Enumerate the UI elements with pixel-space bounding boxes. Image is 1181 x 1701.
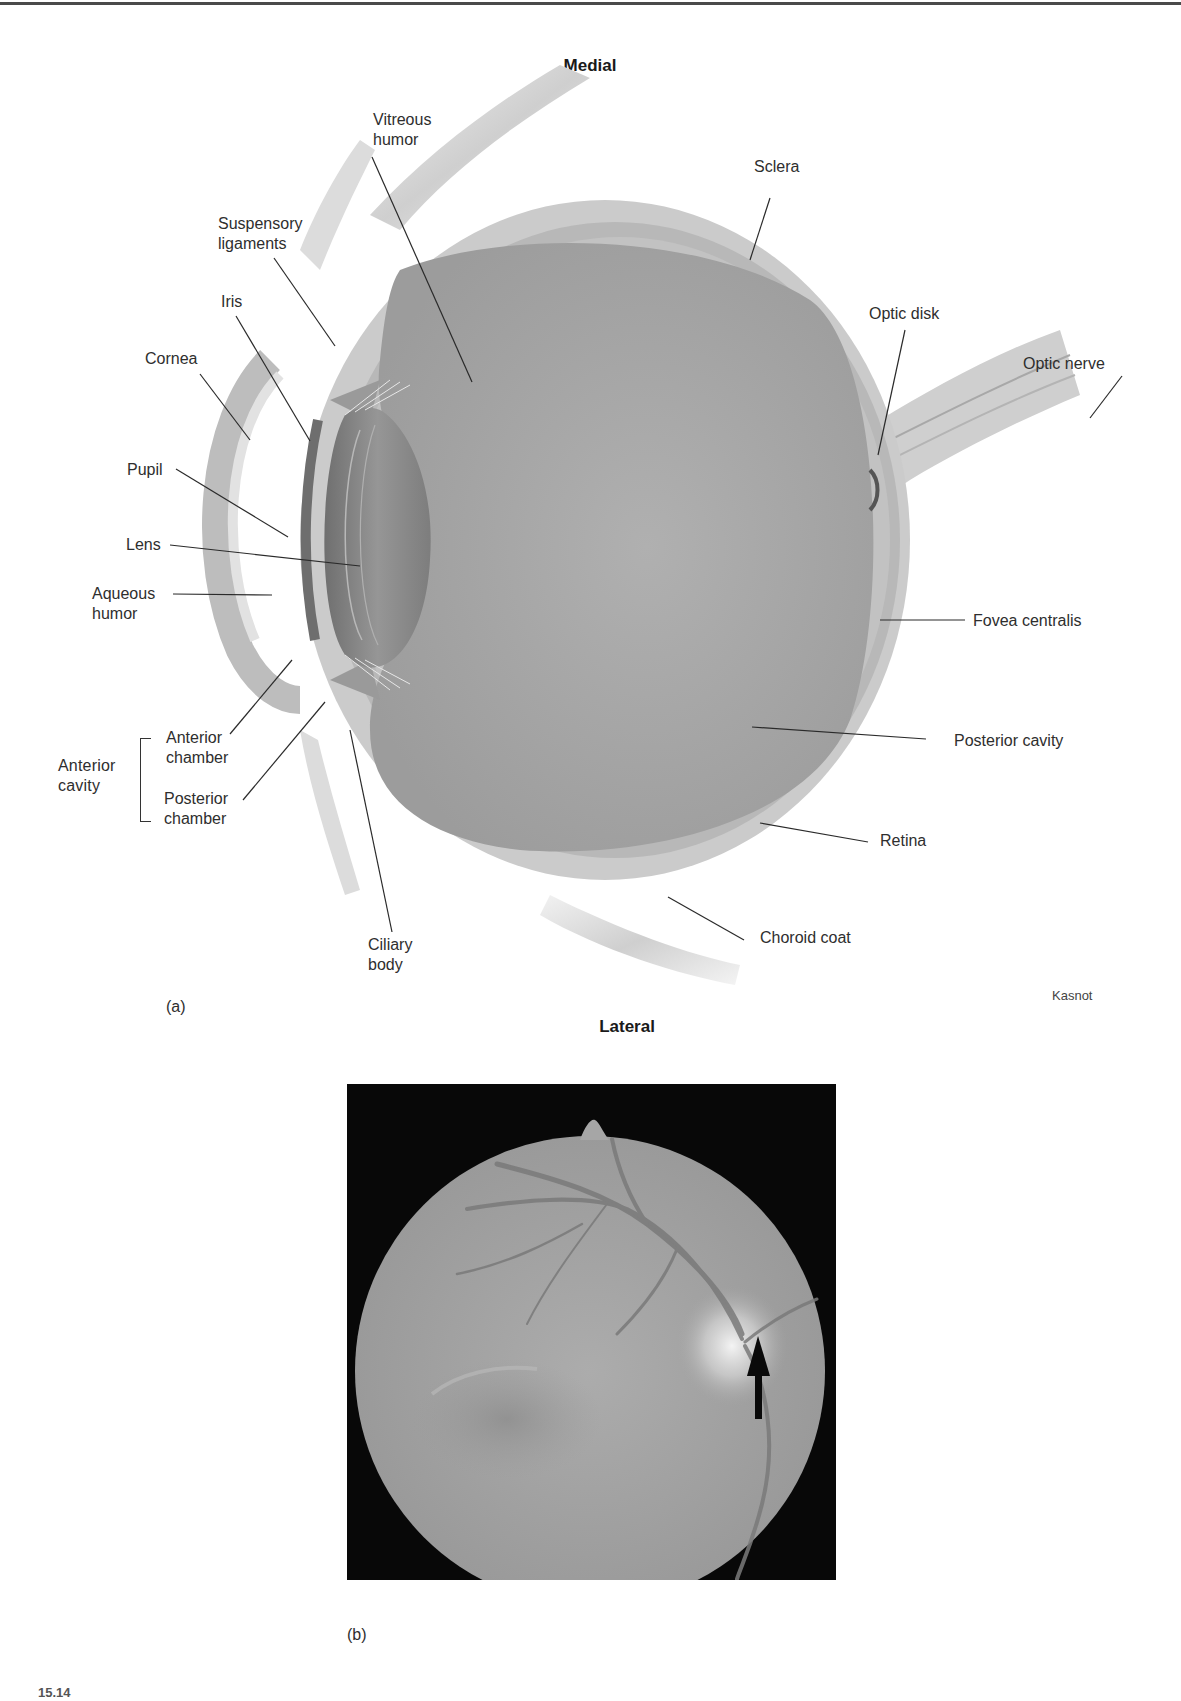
label-optic-nerve: Optic nerve	[1023, 354, 1105, 374]
fundus-photograph	[347, 1084, 836, 1580]
label-pupil: Pupil	[127, 460, 163, 480]
label-vitreous-humor: Vitreous humor	[373, 110, 431, 150]
label-sclera: Sclera	[754, 157, 799, 177]
panel-a-letter: (a)	[166, 998, 186, 1016]
eye-cross-section-diagram	[0, 0, 1181, 1000]
fundus-image	[347, 1084, 836, 1580]
label-posterior-cavity: Posterior cavity	[954, 731, 1063, 751]
lateral-heading: Lateral	[599, 1017, 655, 1037]
label-cornea: Cornea	[145, 349, 197, 369]
lower-muscle	[300, 730, 360, 895]
label-iris: Iris	[221, 292, 242, 312]
label-posterior-chamber: Posterior chamber	[164, 789, 228, 829]
label-aqueous-humor: Aqueous humor	[92, 584, 155, 624]
label-ciliary-body: Ciliary body	[368, 935, 412, 975]
vitreous-chamber	[370, 243, 873, 852]
anterior-cavity-bracket	[140, 738, 151, 822]
label-suspensory-ligaments: Suspensory ligaments	[218, 214, 303, 254]
panel-b-letter: (b)	[347, 1626, 367, 1644]
label-anterior-chamber: Anterior chamber	[166, 728, 228, 768]
upper-muscle	[300, 140, 375, 270]
optic-disk	[677, 1286, 787, 1406]
label-lens: Lens	[126, 535, 161, 555]
fundus-notch	[580, 1120, 609, 1140]
label-fovea-centralis: Fovea centralis	[973, 611, 1082, 631]
label-anterior-cavity: Anterior cavity	[58, 756, 116, 796]
label-optic-disk: Optic disk	[869, 304, 939, 324]
caption-fragment: 15.14	[38, 1683, 71, 1701]
artist-credit: Kasnot	[1052, 986, 1092, 1006]
label-choroid-coat: Choroid coat	[760, 928, 851, 948]
inferior-muscle	[540, 895, 740, 985]
macula	[412, 1359, 602, 1479]
label-retina: Retina	[880, 831, 926, 851]
